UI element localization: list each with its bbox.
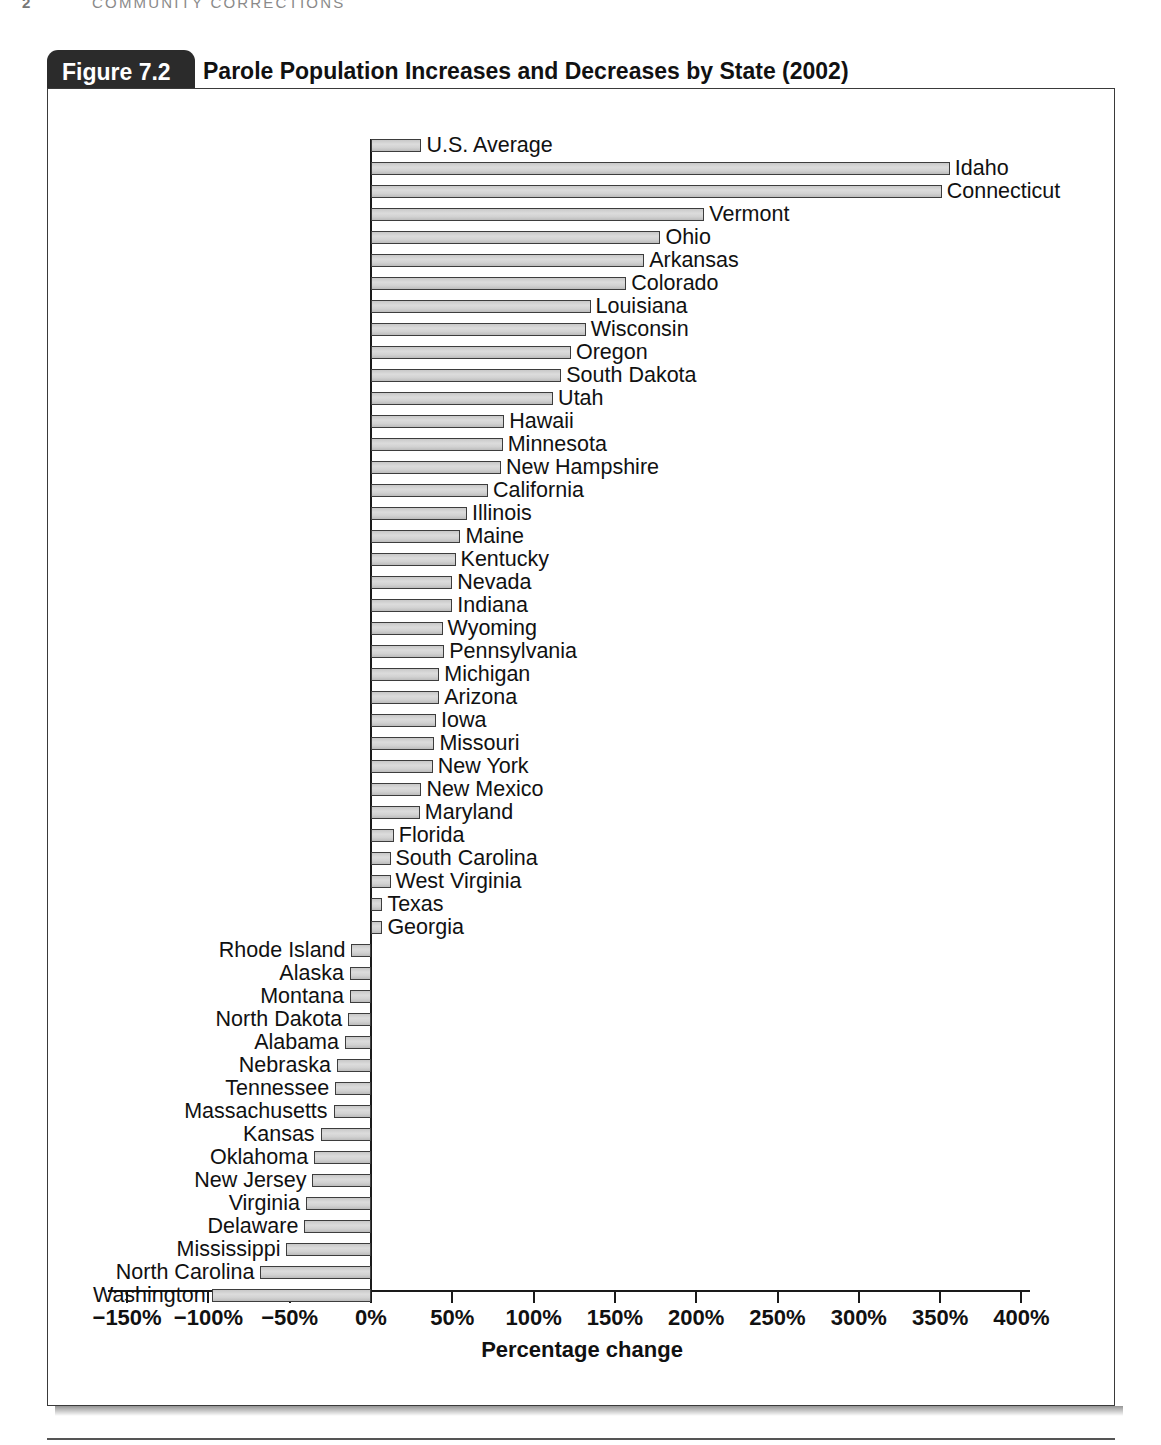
bar-label: Virginia — [229, 1192, 300, 1215]
figure-number-label: Figure 7.2 — [62, 59, 171, 86]
bar — [371, 829, 394, 842]
bar-label: Maine — [465, 525, 524, 548]
bar-row: Louisiana — [48, 296, 1116, 319]
bar — [371, 300, 591, 313]
bar — [371, 392, 553, 405]
bar — [371, 737, 434, 750]
bar — [371, 208, 704, 221]
bar-row: U.S. Average — [48, 135, 1116, 158]
bar-row: Maine — [48, 526, 1116, 549]
bar — [371, 553, 456, 566]
figure-box: −150%−100%−50%0%50%100%150%200%250%300%3… — [47, 88, 1115, 1406]
bar — [321, 1128, 371, 1141]
bar-row: Pennsylvania — [48, 641, 1116, 664]
bar-row: Missouri — [48, 733, 1116, 756]
x-axis-tick-label: −100% — [174, 1305, 243, 1331]
bar-label: Kansas — [243, 1123, 315, 1146]
bar-label: Pennsylvania — [449, 640, 577, 663]
bar-row: Minnesota — [48, 434, 1116, 457]
bar — [312, 1174, 371, 1187]
bar — [212, 1289, 371, 1302]
bar-row: Ohio — [48, 227, 1116, 250]
bar-row: Utah — [48, 388, 1116, 411]
bar-label: Illinois — [472, 502, 532, 525]
bar — [371, 231, 660, 244]
x-axis-tick-label: 300% — [831, 1305, 887, 1331]
bar — [371, 139, 421, 152]
bar-row: Florida — [48, 825, 1116, 848]
bar-row: Alabama — [48, 1032, 1116, 1055]
bar-label: U.S. Average — [426, 134, 552, 157]
bar-chart: −150%−100%−50%0%50%100%150%200%250%300%3… — [48, 89, 1116, 1407]
bar-label: Iowa — [441, 709, 486, 732]
bar-label: Montana — [260, 985, 344, 1008]
figure-shadow — [55, 1406, 1123, 1416]
bar-label: Vermont — [709, 203, 789, 226]
running-head-title: COMMUNITY CORRECTIONS — [92, 0, 345, 11]
bar — [371, 714, 436, 727]
bar-label: Texas — [387, 893, 443, 916]
bar-row: New York — [48, 756, 1116, 779]
bar-label: Arkansas — [649, 249, 739, 272]
bar-label: South Carolina — [396, 847, 538, 870]
bar — [371, 369, 561, 382]
bar-label: Alabama — [254, 1031, 339, 1054]
x-axis-tick-label: 0% — [355, 1305, 387, 1331]
x-axis-tick-label: 200% — [668, 1305, 724, 1331]
bar-row: South Carolina — [48, 848, 1116, 871]
bar-label: Minnesota — [508, 433, 607, 456]
x-axis-title: Percentage change — [48, 1337, 1116, 1363]
bar — [335, 1082, 371, 1095]
bar-label: New Mexico — [426, 778, 543, 801]
bar — [371, 438, 503, 451]
figure-title: Parole Population Increases and Decrease… — [203, 58, 849, 85]
bar-label: Hawaii — [509, 410, 574, 433]
bar — [334, 1105, 371, 1118]
bar — [314, 1151, 371, 1164]
bar — [371, 185, 942, 198]
bar-label: Nebraska — [239, 1054, 331, 1077]
bar-row: Tennessee — [48, 1078, 1116, 1101]
bar-row: Illinois — [48, 503, 1116, 526]
bar — [371, 898, 382, 911]
bar-label: West Virginia — [396, 870, 522, 893]
bar — [345, 1036, 371, 1049]
bar-row: Iowa — [48, 710, 1116, 733]
bar — [371, 530, 460, 543]
bar-label: Nevada — [457, 571, 531, 594]
bar-label: California — [493, 479, 584, 502]
bar-row: Oregon — [48, 342, 1116, 365]
bar-label: Delaware — [208, 1215, 299, 1238]
bar-row: California — [48, 480, 1116, 503]
x-axis-tick-label: 400% — [993, 1305, 1049, 1331]
bar — [371, 875, 391, 888]
bar-row: Maryland — [48, 802, 1116, 825]
bar-label: Louisiana — [596, 295, 688, 318]
bar-row: Oklahoma — [48, 1147, 1116, 1170]
bar — [371, 277, 626, 290]
bar — [371, 484, 488, 497]
bar-row: Nevada — [48, 572, 1116, 595]
bar-label: Florida — [399, 824, 465, 847]
bar-row: Virginia — [48, 1193, 1116, 1216]
bar — [371, 645, 444, 658]
bar — [304, 1220, 371, 1233]
figure-number-tab: Figure 7.2 — [47, 50, 195, 93]
x-axis-tick-label: 350% — [912, 1305, 968, 1331]
bar-row: Alaska — [48, 963, 1116, 986]
bar-row: Kentucky — [48, 549, 1116, 572]
bar-label: Indiana — [457, 594, 528, 617]
bar-label: Rhode Island — [219, 939, 346, 962]
bar-label: Wisconsin — [591, 318, 689, 341]
bar — [350, 967, 371, 980]
bar — [337, 1059, 371, 1072]
bar-label: Washington — [93, 1284, 206, 1307]
bar-label: New Hampshire — [506, 456, 659, 479]
bar — [371, 346, 571, 359]
bar-label: Missouri — [439, 732, 519, 755]
bar — [371, 852, 391, 865]
bar-row: Mississippi — [48, 1239, 1116, 1262]
bar-row: Georgia — [48, 917, 1116, 940]
bar-label: Georgia — [387, 916, 464, 939]
bar-label: New Jersey — [194, 1169, 306, 1192]
